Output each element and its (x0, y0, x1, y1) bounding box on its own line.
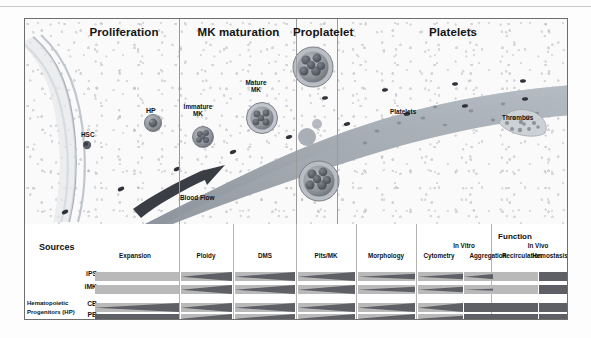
matrix-cell-cb-dms (235, 303, 295, 312)
column-header-ploidy: Ploidy (180, 252, 232, 259)
matrix-cell-cb-plts-mk (298, 303, 355, 312)
hp-cell (144, 114, 161, 131)
matrix-divider-5 (416, 224, 417, 319)
stage-divider-2 (296, 19, 297, 224)
matrix-cell-pb-hemostasis (539, 314, 568, 320)
matrix-cell-cb-ploidy (181, 303, 232, 312)
stage-title-mk-maturation: MK maturation (181, 26, 296, 38)
matrix-cell-imk-expansion (95, 285, 179, 294)
matrix-cell-cb-cytometry (418, 303, 463, 312)
stage-title-platelets: Platelets (339, 26, 567, 38)
annotation-mature-mk: MatureMK (238, 79, 274, 93)
column-header-hemostasis: Hemostasis (521, 252, 568, 259)
immature-mk-cell (193, 127, 214, 148)
annotation-platelets: Platelets (390, 108, 416, 115)
matrix-cell-ips-recirculation (493, 272, 538, 281)
stage-title-proplatelet: Proplatelet (293, 26, 343, 38)
sinusoid-vessel-left (25, 35, 85, 222)
blood-flow-arrowhead (201, 165, 225, 185)
matrix-cell-imk-ploidy (181, 285, 232, 294)
stage-divider-3 (337, 19, 338, 224)
matrix-cell-imk-recirculation (493, 285, 538, 294)
matrix-cell-ips-plts-mk (298, 272, 355, 281)
figure-root: Proliferation MK maturation Proplatelet … (0, 0, 591, 338)
matrix-cell-pb-expansion (95, 314, 179, 320)
matrix-divider-2 (233, 224, 234, 319)
hsc-cell (83, 141, 91, 149)
source-comparison-matrix: Sources Function In Vitro In Vivo Expans… (25, 224, 567, 319)
matrix-divider-3 (296, 224, 297, 319)
hematopoietic-progenitors-label: Hematopoietic Progenitors (HP) (27, 299, 75, 316)
annotation-hsc: HSC (81, 131, 95, 138)
annotation-blood-flow: Blood Flow (180, 194, 214, 201)
matrix-cell-cb-expansion (95, 303, 179, 312)
column-header-plts-mk: Plts/MK (297, 252, 355, 259)
matrix-cell-cb-morphology (358, 303, 415, 312)
annotation-hp: HP (146, 107, 156, 115)
budding-proplatelet-small (312, 119, 322, 129)
matrix-cell-cb-recirculation (493, 303, 538, 312)
vessel-wall-fill (25, 37, 76, 222)
annotation-thrombus: Thrombus (502, 114, 533, 121)
mature-mk-cell (247, 103, 278, 134)
matrix-divider-4 (356, 224, 357, 319)
in-vitro-header: In Vitro (429, 242, 499, 249)
column-header-cytometry: Cytometry (417, 252, 461, 259)
matrix-cell-ips-cytometry (418, 272, 463, 281)
matrix-cell-pb-ploidy (181, 314, 232, 320)
matrix-cell-ips-dms (235, 272, 295, 281)
proplatelet-mk-lower (299, 161, 339, 201)
matrix-divider-1 (179, 224, 180, 319)
proplatelet-mk-upper (293, 47, 333, 87)
matrix-cell-imk-morphology (358, 285, 415, 294)
budding-proplatelet (298, 128, 316, 146)
column-header-expansion: Expansion (97, 252, 173, 259)
matrix-cell-imk-plts-mk (298, 285, 355, 294)
matrix-cell-imk-hemostasis (539, 285, 568, 294)
row-label-ips: iPS (55, 270, 97, 277)
matrix-cell-cb-hemostasis (539, 303, 568, 312)
matrix-cell-ips-ploidy (181, 272, 232, 281)
in-vivo-header: In Vivo (503, 242, 568, 249)
hematopoietic-line: Hematopoietic (27, 300, 68, 306)
endothelial-cell-dots (61, 79, 528, 215)
matrix-cell-ips-morphology (358, 272, 415, 281)
annotation-immature-mk: ImmatureMK (177, 103, 219, 117)
matrix-cell-ips-hemostasis (539, 272, 568, 281)
row-label-imk: iMK (55, 283, 97, 290)
matrix-cell-imk-dms (235, 285, 295, 294)
illustration-panel: Proliferation MK maturation Proplatelet … (25, 19, 567, 224)
matrix-cell-ips-expansion (95, 272, 179, 281)
column-header-morphology: Morphology (358, 252, 414, 259)
function-group-header: Function (475, 232, 555, 241)
figure-frame: Proliferation MK maturation Proplatelet … (24, 18, 568, 320)
sources-header: Sources (39, 242, 75, 252)
top-rule (0, 6, 591, 7)
matrix-cell-pb-plts-mk (298, 314, 355, 320)
stage-title-proliferation: Proliferation (69, 26, 179, 38)
column-header-dms: DMS (236, 252, 294, 259)
matrix-cell-pb-dms (235, 314, 295, 320)
matrix-cell-pb-cytometry (418, 314, 463, 320)
matrix-cell-pb-recirculation (493, 314, 538, 320)
matrix-cell-imk-cytometry (418, 285, 463, 294)
progenitors-line: Progenitors (HP) (27, 309, 75, 315)
matrix-cell-pb-morphology (358, 314, 415, 320)
